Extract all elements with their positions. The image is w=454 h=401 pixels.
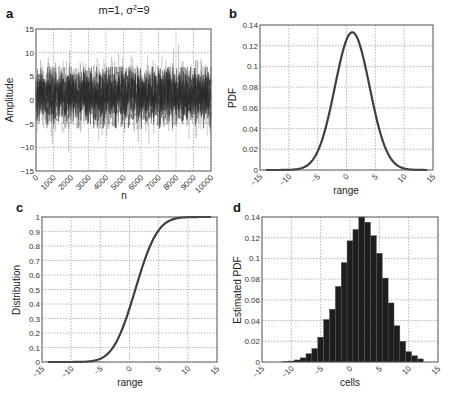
panel-b-y-ticks: 00.020.040.060.080.10.120.14 xyxy=(242,21,258,175)
x-tick-label: −5 xyxy=(312,364,325,377)
x-tick-label: −15 xyxy=(30,364,46,380)
y-tick-label: 0.8 xyxy=(29,242,41,251)
x-tick-label: 3000 xyxy=(74,173,93,192)
x-tick-label: 7000 xyxy=(144,173,163,192)
panel-a: a m=1, σ2=9 −15−10−5051015 0100020003000… xyxy=(4,4,216,201)
panel-b-xlabel: range xyxy=(333,185,359,196)
x-tick-label: 0 xyxy=(124,364,134,374)
y-tick-label: 0.1 xyxy=(249,254,261,263)
x-tick-label: 5 xyxy=(154,364,164,374)
histogram-bar xyxy=(312,349,318,362)
y-tick-label: 0.2 xyxy=(29,329,41,338)
y-tick-label: 0.14 xyxy=(242,21,258,30)
x-tick-label: −15 xyxy=(248,172,264,188)
x-tick-label: 6000 xyxy=(126,173,145,192)
histogram-bar xyxy=(365,222,371,362)
panel-d-y-ticks: 00.020.040.060.080.10.120.14 xyxy=(244,213,260,367)
y-tick-label: 0.06 xyxy=(242,104,258,113)
panel-d-xlabel: cells xyxy=(340,377,360,388)
y-tick-label: 0.06 xyxy=(244,296,260,305)
x-tick-label: 15 xyxy=(425,172,438,185)
panel-label-d: d xyxy=(233,200,241,215)
x-tick-label: 10 xyxy=(396,172,409,185)
panel-a-noise-signal xyxy=(36,44,211,152)
y-tick-label: 0.12 xyxy=(244,234,260,243)
panel-c-grid xyxy=(42,217,217,362)
histogram-bar xyxy=(412,356,418,362)
histogram-bar xyxy=(341,263,347,362)
x-tick-label: 15 xyxy=(209,364,222,377)
y-tick-label: 0.08 xyxy=(242,83,258,92)
figure: a m=1, σ2=9 −15−10−5051015 0100020003000… xyxy=(0,0,454,401)
x-tick-label: 0 xyxy=(341,172,351,182)
panel-d-ylabel: Estimated PDF xyxy=(232,256,243,323)
panel-a-y-ticks: −15−10−5051015 xyxy=(20,25,34,176)
y-tick-label: 0.1 xyxy=(29,344,41,353)
y-tick-label: 0.02 xyxy=(244,337,260,346)
histogram-bar xyxy=(300,358,306,362)
x-tick-label: 15 xyxy=(430,364,443,377)
panel-b-grid xyxy=(260,25,433,170)
panel-c-y-ticks: 00.10.20.30.40.50.60.70.80.91 xyxy=(29,213,41,367)
histogram-bar xyxy=(359,217,365,362)
x-tick-label: 10 xyxy=(180,364,193,377)
x-tick-label: 10000 xyxy=(193,173,215,195)
histogram-bar xyxy=(347,241,353,362)
y-tick-label: 0.02 xyxy=(242,145,258,154)
x-tick-label: 2000 xyxy=(56,173,75,192)
x-tick-label: 0 xyxy=(345,364,355,374)
x-tick-label: 10 xyxy=(400,364,413,377)
x-tick-label: 4000 xyxy=(91,173,110,192)
panel-c-ylabel: Distribution xyxy=(11,265,22,315)
histogram-bar xyxy=(382,278,388,362)
histogram-bar xyxy=(400,341,406,362)
histogram-bar xyxy=(371,236,377,362)
x-tick-label: 5 xyxy=(374,364,384,374)
y-tick-label: 0.08 xyxy=(244,275,260,284)
y-tick-label: 5 xyxy=(30,72,35,81)
panel-d-histogram-bars xyxy=(283,217,424,362)
y-tick-label: 0.1 xyxy=(247,62,259,71)
histogram-bar xyxy=(353,229,359,362)
panel-a-ylabel: Amplitude xyxy=(4,77,15,122)
x-tick-label: −10 xyxy=(277,172,293,188)
histogram-bar xyxy=(394,326,400,362)
y-tick-label: 0.04 xyxy=(242,125,258,134)
y-tick-label: 0.6 xyxy=(29,271,41,280)
histogram-bar xyxy=(324,320,330,362)
x-tick-label: −15 xyxy=(250,364,266,380)
x-tick-label: 5 xyxy=(370,172,380,182)
histogram-bar xyxy=(376,253,382,362)
histogram-bar xyxy=(318,337,324,362)
x-tick-label: −10 xyxy=(280,364,296,380)
panel-a-title: m=1, σ2=9 xyxy=(98,4,149,16)
y-tick-label: 15 xyxy=(25,25,34,34)
y-tick-label: 0.14 xyxy=(244,213,260,222)
x-tick-label: 1000 xyxy=(39,173,58,192)
histogram-bar xyxy=(406,352,412,362)
x-tick-label: 0 xyxy=(31,173,41,183)
histogram-bar xyxy=(335,286,341,362)
y-tick-label: 0.3 xyxy=(29,315,41,324)
x-tick-label: −5 xyxy=(309,172,322,185)
panel-b-ylabel: PDF xyxy=(227,88,238,108)
histogram-bar xyxy=(329,309,335,362)
y-tick-label: 0.4 xyxy=(29,300,41,309)
panel-c-xlabel: range xyxy=(117,377,143,388)
y-tick-label: 0.9 xyxy=(29,228,41,237)
y-tick-label: 0.5 xyxy=(29,286,41,295)
panel-label-a: a xyxy=(6,6,14,21)
panel-label-c: c xyxy=(16,200,23,215)
y-tick-label: −5 xyxy=(25,120,35,129)
histogram-bar xyxy=(306,354,312,362)
histogram-bar xyxy=(388,303,394,362)
panel-c: c 00.10.20.30.40.50.60.70.80.91 −15−10−5… xyxy=(11,200,222,388)
y-tick-label: 0 xyxy=(30,96,35,105)
x-tick-label: −10 xyxy=(60,364,76,380)
histogram-bar xyxy=(417,359,423,362)
y-tick-label: 0.12 xyxy=(242,42,258,51)
x-tick-label: 8000 xyxy=(161,173,180,192)
panel-label-b: b xyxy=(229,6,237,21)
y-tick-label: 1 xyxy=(36,213,41,222)
x-tick-label: −5 xyxy=(92,364,105,377)
